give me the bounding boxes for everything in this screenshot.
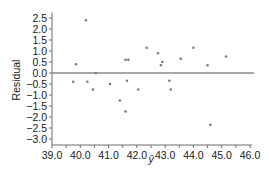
x-tick-label: 41.0 [98,149,119,161]
x-tick-label: 46.0 [240,149,261,161]
data-point [85,19,88,22]
data-point [124,59,127,62]
y-tick-label: −3.0 [26,133,47,145]
data-point [168,79,171,82]
x-tick-label: 45.0 [211,149,232,161]
data-point [209,123,212,126]
data-point [126,79,129,82]
data-point [160,64,163,67]
data-point [119,99,122,102]
data-point [72,81,75,84]
x-tick-label: 40.0 [70,149,91,161]
y-axis: 2.52.01.51.00.50.0−0.5−1.0−1.5−2.0−2.5−3… [26,12,52,146]
data-point [170,88,173,91]
x-axis-title: ŷ [147,153,154,165]
x-tick-label: 42.0 [127,149,148,161]
data-point [157,52,160,55]
data-point [179,57,182,60]
data-point [145,46,148,49]
data-point [137,88,140,91]
data-point [109,83,112,86]
data-point [225,55,228,58]
residual-scatter-chart: 2.52.01.51.00.50.0−0.5−1.0−1.5−2.0−2.5−3… [0,0,269,177]
data-point [95,72,98,75]
x-tick-label: 39.0 [42,149,63,161]
data-point [86,81,89,84]
data-point [127,59,130,62]
x-tick-label: 44.0 [183,149,204,161]
data-point [192,46,195,49]
data-point [161,61,164,64]
data-point [124,110,127,113]
data-point [206,64,209,67]
data-point [92,88,95,91]
data-point [75,63,78,66]
y-axis-title: Residual [10,60,22,101]
x-tick-label: 43.0 [155,149,176,161]
